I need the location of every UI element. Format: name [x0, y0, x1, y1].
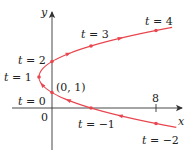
point-t--2 [154, 122, 158, 126]
y-axis-label: y [40, 6, 48, 19]
parametric-curve [39, 27, 176, 127]
svg-text:t = 3: t = 3 [81, 28, 109, 41]
svg-text:t = 2: t = 2 [18, 54, 46, 67]
direction-arrow-icon [65, 51, 72, 57]
t-label-4: t = 4 [145, 15, 173, 28]
parametric-curve-figure: y x 0 8 (0, 1) t = 4 t = 3 t = 2 t = 1 t… [0, 0, 194, 156]
t-label-minus-2: t = −2 [142, 134, 179, 147]
t-label-minus-1: t = −1 [78, 118, 115, 131]
point-0-1-label: (0, 1) [56, 81, 86, 94]
point-t-1 [37, 75, 41, 79]
chart-canvas: y x 0 8 (0, 1) t = 4 t = 3 t = 2 t = 1 t… [0, 0, 194, 156]
t-label-2: t = 2 [18, 54, 46, 67]
t-label-0: t = 0 [18, 95, 46, 108]
point-t-2 [50, 60, 54, 64]
t-label-3: t = 3 [81, 28, 109, 41]
point-t--1 [89, 106, 93, 110]
origin-label: 0 [41, 111, 48, 124]
t-label-1: t = 1 [4, 71, 32, 84]
svg-text:t = −2: t = −2 [142, 134, 179, 147]
x-axis-label: x [178, 115, 185, 128]
svg-text:t = 4: t = 4 [145, 15, 173, 28]
svg-text:t = 0: t = 0 [18, 95, 46, 108]
point-t-4 [154, 29, 158, 33]
x-tick-8-label: 8 [152, 92, 159, 105]
direction-arrows [39, 36, 124, 119]
point-t-0 [50, 91, 54, 95]
svg-text:t = −1: t = −1 [78, 118, 115, 131]
svg-text:t = 1: t = 1 [4, 71, 32, 84]
t-value-points [37, 29, 158, 126]
point-t-3 [89, 44, 93, 48]
direction-arrow-icon [65, 97, 72, 103]
